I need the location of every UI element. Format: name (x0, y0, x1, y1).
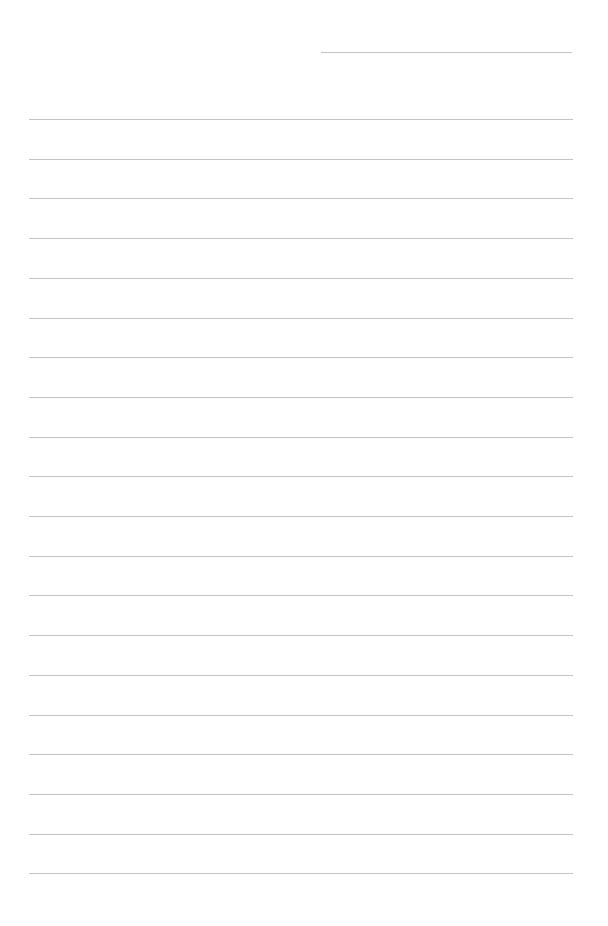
ruled-line (29, 437, 573, 438)
ruled-line (29, 834, 573, 835)
ruled-line (29, 397, 573, 398)
ruled-line (29, 119, 573, 120)
ruled-line (29, 675, 573, 676)
ruled-line (29, 516, 573, 517)
ruled-line (29, 754, 573, 755)
lined-paper-page (0, 0, 608, 926)
ruled-line (29, 357, 573, 358)
ruled-line (29, 715, 573, 716)
ruled-line (29, 278, 573, 279)
ruled-line (29, 635, 573, 636)
ruled-line (29, 595, 573, 596)
header-line (321, 52, 572, 53)
ruled-line (29, 318, 573, 319)
ruled-line (29, 556, 573, 557)
ruled-line (29, 873, 573, 874)
ruled-line (29, 476, 573, 477)
ruled-line (29, 794, 573, 795)
ruled-line (29, 238, 573, 239)
ruled-line (29, 159, 573, 160)
ruled-line (29, 198, 573, 199)
